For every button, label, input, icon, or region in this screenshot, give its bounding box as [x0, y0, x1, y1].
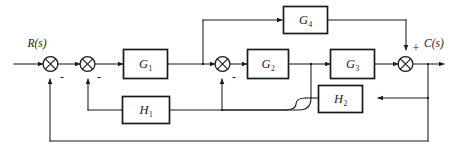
sign-summer4-plus: +	[413, 42, 420, 54]
output-signal-label: C(s)	[424, 38, 444, 50]
junction-dot-h2-tap	[427, 97, 429, 99]
junction-dot-g2-branch	[310, 63, 312, 65]
block-label-g2: G2	[262, 58, 275, 71]
block-label-g3: G3	[346, 58, 359, 71]
junction-dot-h1-node	[221, 109, 223, 111]
junction-dot-g4-branch	[202, 63, 204, 65]
block-diagram: R(s) C(s) G1 G2 G3 G4 H1 H2 - - - +	[0, 0, 455, 158]
sign-summer2-minus: -	[97, 71, 101, 83]
block-label-h1: H1	[140, 104, 153, 117]
sign-summer1-minus: -	[60, 71, 64, 83]
block-label-g4: G4	[299, 14, 312, 27]
diagram-canvas	[0, 0, 455, 158]
sign-summer3-minus: -	[232, 71, 236, 83]
input-signal-label: R(s)	[27, 38, 46, 50]
wire-hop-bridge	[284, 98, 306, 110]
junction-dot-output-tap	[427, 63, 429, 65]
block-label-h2: H2	[334, 93, 347, 106]
block-label-g1: G1	[139, 58, 152, 71]
